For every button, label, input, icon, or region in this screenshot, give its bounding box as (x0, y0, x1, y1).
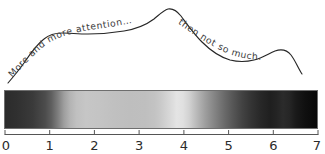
tick-label-1: 1 (46, 138, 54, 153)
tick-label-3: 3 (135, 138, 143, 153)
curve-label-left-text: More and more attention… (6, 14, 133, 79)
tick-label-2: 2 (90, 138, 98, 153)
tick-label-6: 6 (269, 138, 277, 153)
axis-ticks (5, 130, 318, 135)
attention-curve-line (8, 9, 302, 83)
tick-label-0: 0 (2, 138, 10, 153)
tick-label-4: 4 (180, 138, 188, 153)
curve-label-left: More and more attention… (6, 14, 133, 79)
attention-curve-figure: More and more attention… then not so muc… (0, 0, 325, 154)
attention-gradient-bar (5, 91, 318, 129)
tick-label-7: 7 (313, 138, 321, 153)
figure-canvas: More and more attention… then not so muc… (0, 0, 325, 154)
tick-label-5: 5 (224, 138, 232, 153)
axis-tick-labels: 0 1 2 3 4 5 6 7 (2, 138, 321, 153)
